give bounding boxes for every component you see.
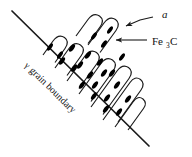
cementite-lens	[100, 68, 108, 77]
cementite-lens	[106, 25, 114, 34]
cementite-label-fe: Fe	[152, 35, 163, 47]
alpha-leader-arrow	[126, 17, 153, 26]
cementite-lens	[113, 80, 121, 89]
cementite-lens	[118, 52, 126, 61]
cementite-lens	[124, 94, 132, 103]
grain-boundary-text: grain boundary	[28, 65, 79, 116]
leader-lines	[116, 17, 153, 40]
lamella-plate	[76, 15, 102, 44]
pearlite-colony	[43, 15, 145, 130]
cementite-lens	[91, 80, 99, 89]
cementite-label: Fe 3 C	[152, 35, 177, 50]
ferrite-phase-label: a	[162, 8, 168, 20]
lamella-plate	[55, 44, 83, 76]
cementite-label-c: C	[170, 35, 177, 47]
pearlite-growth-figure: a Fe 3 C γ grain boundary	[0, 0, 192, 157]
diagram-canvas: a Fe 3 C γ grain boundary	[0, 0, 192, 157]
